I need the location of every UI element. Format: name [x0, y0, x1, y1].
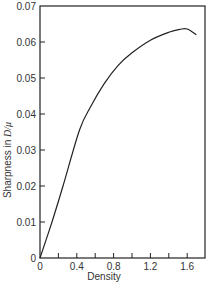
y-tick-label: 0.01: [17, 217, 37, 228]
x-axis-label: Density: [87, 271, 120, 282]
y-tick-label: 0.03: [17, 145, 37, 156]
y-axis-label: Sharpness in D/μ: [2, 122, 13, 198]
x-tick-label: 0.4: [70, 261, 84, 272]
x-axis-ticks: 00.40.81.21.6: [37, 253, 194, 272]
y-tick-label: 0.07: [17, 1, 37, 12]
y-tick-label: 0: [30, 253, 36, 264]
x-tick-label: 1.6: [180, 261, 194, 272]
y-tick-label: 0.02: [17, 181, 37, 192]
y-axis-ticks: 00.010.020.030.040.050.060.07: [17, 1, 45, 264]
y-tick-label: 0.04: [17, 109, 37, 120]
y-axis-label-unit: D/μ: [2, 122, 13, 138]
y-tick-label: 0.06: [17, 37, 37, 48]
y-tick-label: 0.05: [17, 73, 37, 84]
y-axis-label-prefix: Sharpness in: [2, 137, 13, 198]
x-tick-label: 0: [37, 261, 43, 272]
sharpness-curve: [40, 29, 196, 258]
plot-frame: [40, 6, 205, 258]
sharpness-density-chart: 00.010.020.030.040.050.060.07 00.40.81.2…: [0, 0, 209, 286]
x-tick-label: 1.2: [143, 261, 157, 272]
